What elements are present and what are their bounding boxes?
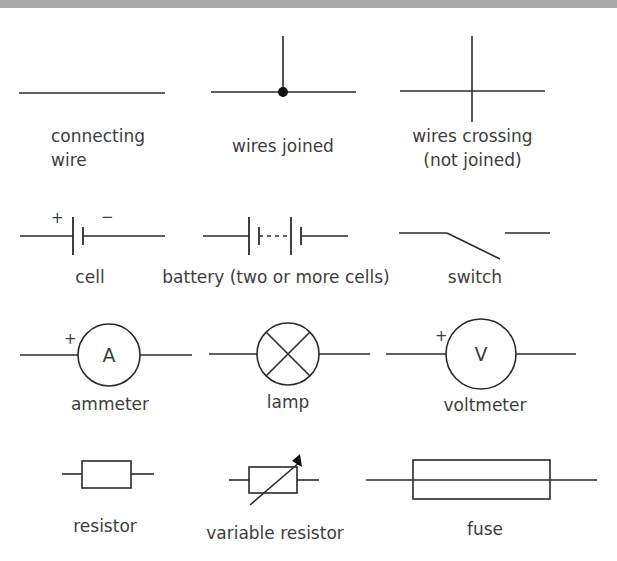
cell-plus-sign: + — [51, 211, 64, 226]
ammeter-label: ammeter — [60, 393, 160, 415]
variable-resistor-symbol — [229, 454, 319, 505]
ammeter-glyph: A — [103, 344, 116, 366]
wires-joined-label: wires joined — [213, 135, 353, 157]
lamp-symbol — [209, 323, 370, 385]
cell-label: cell — [60, 266, 120, 288]
cell-symbol — [20, 217, 165, 255]
lamp-label: lamp — [250, 391, 326, 413]
wires-crossing-label-2: (not joined) — [400, 149, 545, 171]
fuse-symbol — [366, 460, 597, 499]
wires-crossing-label-1: wires crossing — [400, 125, 545, 147]
battery-label: battery (two or more cells) — [158, 266, 394, 288]
resistor-symbol — [62, 461, 154, 488]
voltmeter-plus-sign: + — [435, 329, 448, 344]
variable-resistor-label: variable resistor — [200, 522, 350, 544]
switch-symbol — [399, 233, 550, 259]
fuse-label: fuse — [450, 518, 520, 540]
wires-joined-symbol — [211, 36, 356, 97]
voltmeter-glyph: V — [475, 343, 488, 365]
connecting-wire-label-1: connecting — [51, 125, 145, 147]
connecting-wire-label-2: wire — [51, 149, 87, 171]
wires-crossing-symbol — [400, 36, 545, 122]
voltmeter-label: voltmeter — [430, 394, 540, 416]
battery-symbol — [203, 217, 348, 255]
ammeter-plus-sign: + — [64, 332, 77, 347]
switch-label: switch — [430, 266, 520, 288]
cell-minus-sign: − — [101, 210, 114, 225]
resistor-label: resistor — [60, 515, 150, 537]
